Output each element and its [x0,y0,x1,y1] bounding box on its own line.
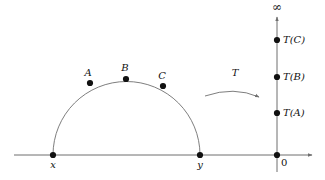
point-B [123,76,129,82]
semicircle-arc [53,82,200,156]
label-point-A: A [84,68,91,78]
point-y [197,152,203,158]
label-mapping-T: T [232,68,239,78]
label-point-C: C [158,71,166,81]
label-infinity: ∞ [272,1,282,13]
point-T-of-C [274,37,280,43]
point-T-of-A [274,110,280,116]
label-point-B: B [121,63,128,73]
label-T-of-B: T(B) [283,72,305,82]
point-T-of-B [274,74,280,80]
label-point-y: y [197,160,203,170]
label-origin-zero: 0 [281,158,287,168]
point-C [160,83,166,89]
point-x [50,152,56,158]
mapping-arrow [205,91,259,97]
label-T-of-A: T(A) [283,108,305,118]
point-A [87,80,93,86]
diagram-vector-layer [0,0,325,180]
label-T-of-C: T(C) [283,35,305,45]
point-origin [274,152,280,158]
diagram-canvas: x y A B C T ∞ 0 T(C) T(B) T(A) [0,0,325,180]
label-point-x: x [50,160,56,170]
